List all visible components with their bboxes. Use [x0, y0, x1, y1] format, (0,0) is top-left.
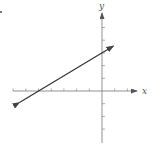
coordinate-graph: x y	[0, 0, 155, 154]
x-axis-label: x	[142, 86, 147, 96]
y-axis-label: y	[98, 1, 105, 11]
plotted-line	[19, 46, 113, 102]
y-axis-ticks	[102, 28, 105, 130]
x-axis	[13, 89, 137, 92]
y-axis	[102, 13, 105, 143]
